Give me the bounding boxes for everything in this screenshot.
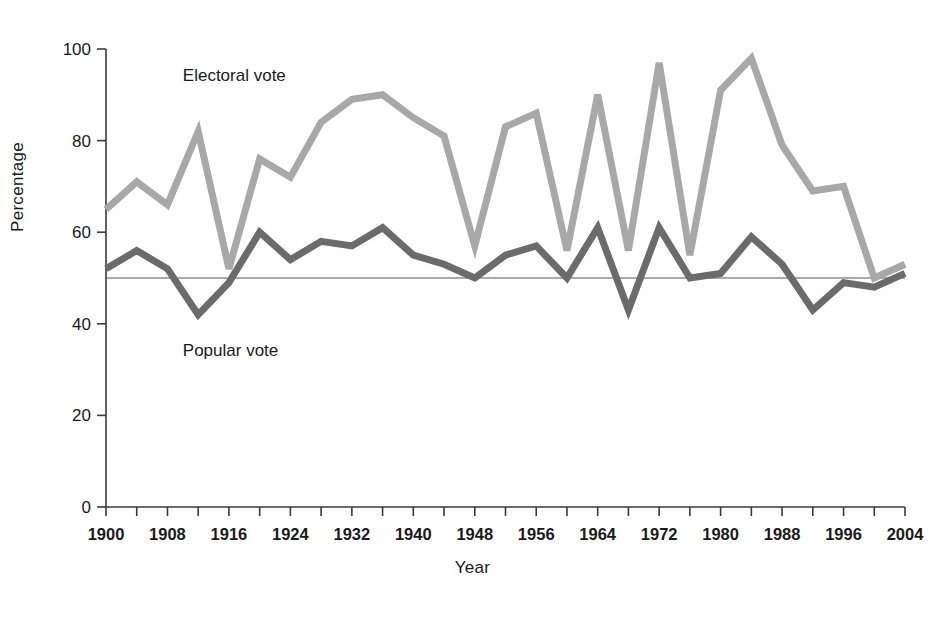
x-tick-label: 1948 <box>456 525 493 543</box>
x-tick-label: 1932 <box>333 525 370 543</box>
x-tick-label: 1900 <box>88 525 125 543</box>
x-tick-label: 1964 <box>579 525 617 543</box>
election-vote-line-chart: 0204060801001900190819161924193219401948… <box>0 0 945 620</box>
y-tick-label: 60 <box>72 223 91 242</box>
x-tick-label: 1924 <box>272 525 310 543</box>
x-tick-label: 1908 <box>149 525 186 543</box>
y-tick-label: 0 <box>82 498 91 517</box>
chart-plot-area: 0204060801001900190819161924193219401948… <box>0 0 945 620</box>
y-tick-label: 100 <box>63 40 91 59</box>
x-tick-label: 1916 <box>211 525 248 543</box>
series-line-electoral-vote <box>106 58 905 278</box>
y-axis-title: Percentage <box>8 142 28 232</box>
x-tick-label: 1956 <box>518 525 555 543</box>
x-tick-label: 1996 <box>825 525 862 543</box>
series-annotation-electoral-vote: Electoral vote <box>183 66 286 85</box>
series-annotation-popular-vote: Popular vote <box>183 341 278 360</box>
x-tick-label: 2004 <box>887 525 925 543</box>
x-tick-label: 1972 <box>641 525 678 543</box>
x-tick-label: 1988 <box>764 525 801 543</box>
x-tick-label: 1980 <box>702 525 739 543</box>
x-axis-title: Year <box>0 558 945 578</box>
y-tick-label: 20 <box>72 406 91 425</box>
y-tick-label: 40 <box>72 315 91 334</box>
x-tick-label: 1940 <box>395 525 432 543</box>
y-tick-label: 80 <box>72 132 91 151</box>
